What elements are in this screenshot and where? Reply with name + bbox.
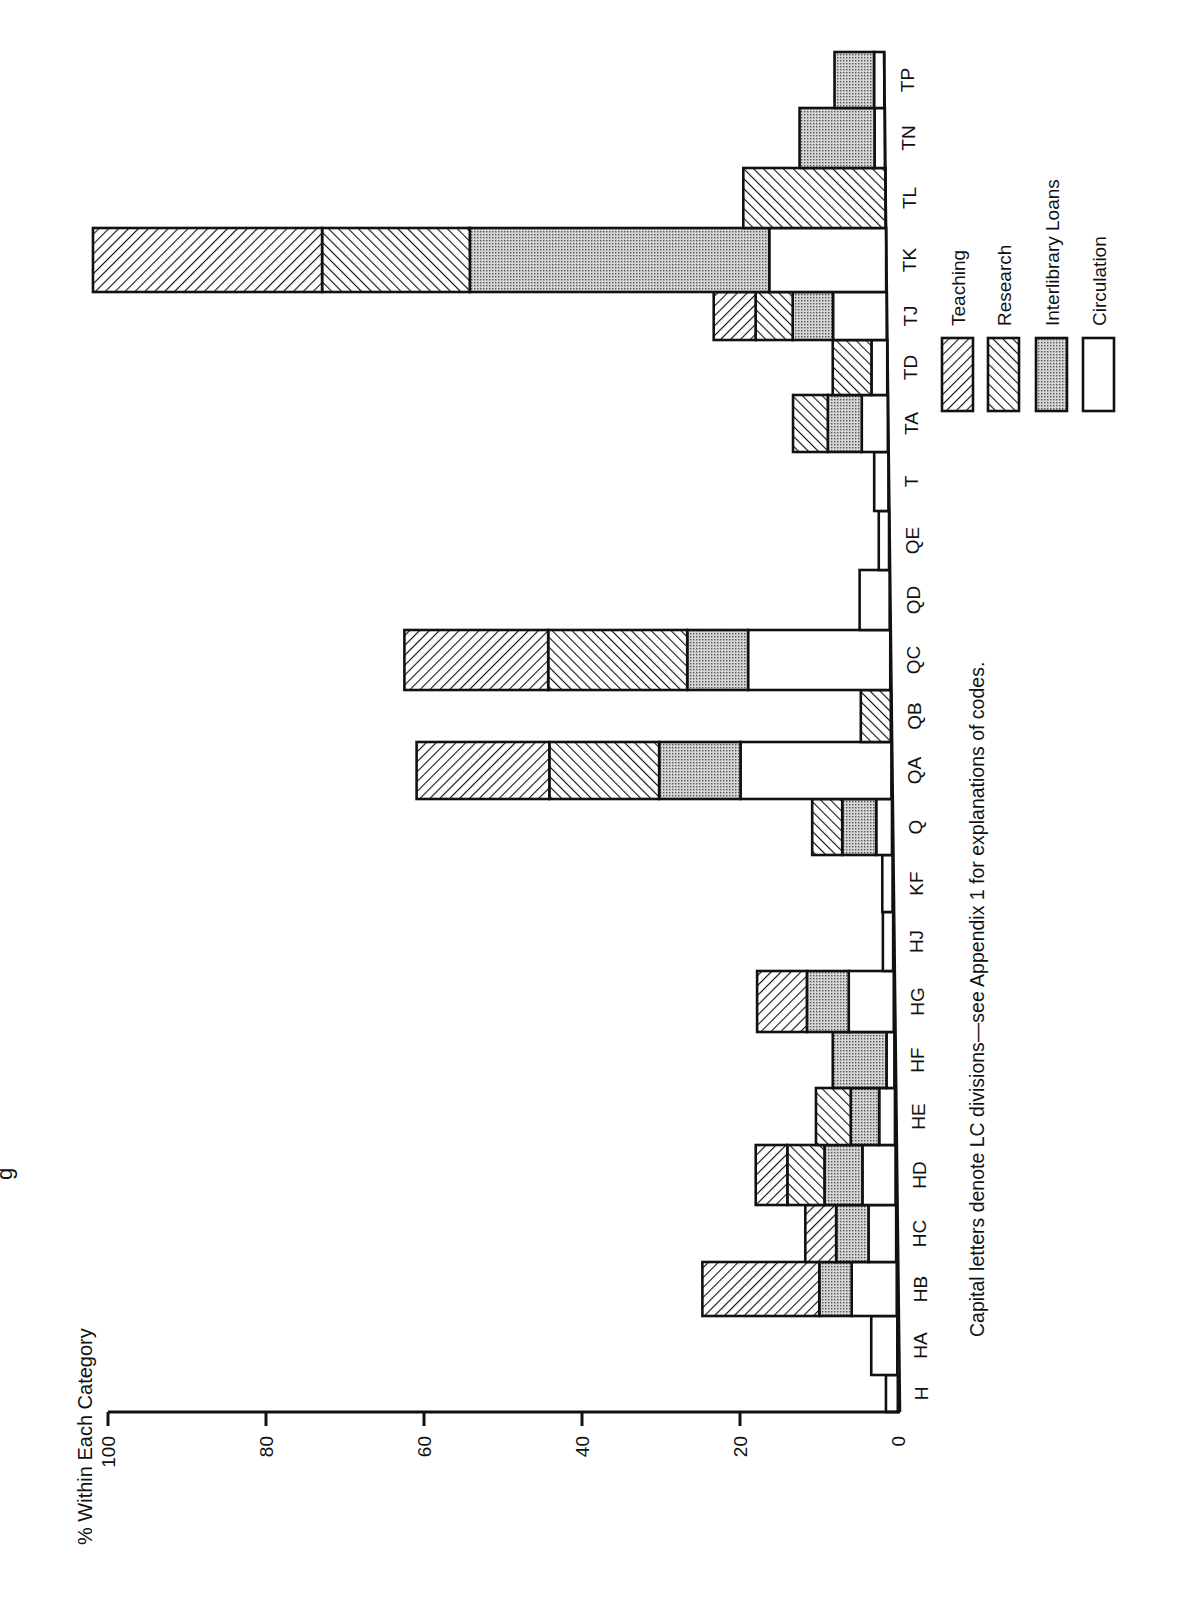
- bar-H: [886, 1375, 898, 1412]
- segment-circulation: [741, 742, 892, 799]
- category-label: HC: [909, 1220, 930, 1247]
- category-label: HG: [907, 987, 928, 1016]
- tick-label: 60: [414, 1436, 435, 1457]
- segment-interlibrary-loans: [659, 742, 740, 799]
- segment-interlibrary-loans: [807, 971, 849, 1032]
- bar-Q: [812, 799, 892, 855]
- legend-item-teaching: Teaching: [942, 250, 973, 411]
- legend-label: Teaching: [948, 250, 969, 326]
- category-label: T: [901, 475, 922, 487]
- segment-research: [816, 1088, 851, 1145]
- tick-label: 80: [256, 1436, 277, 1457]
- bar-HE: [816, 1088, 895, 1145]
- bar-TL: [743, 168, 885, 228]
- segment-research: [756, 292, 793, 340]
- legend-swatch: [1036, 338, 1067, 411]
- tick-label: 0: [888, 1436, 909, 1447]
- segment-teaching: [757, 971, 807, 1032]
- bar-KF: [882, 855, 892, 912]
- segment-interlibrary-loans: [828, 395, 862, 452]
- segment-research: [787, 1145, 824, 1205]
- segment-research: [548, 630, 687, 690]
- segment-interlibrary-loans: [793, 292, 833, 340]
- bars-group: [93, 52, 898, 1412]
- bar-QC: [404, 630, 890, 690]
- legend: TeachingResearchInterlibrary LoansCircul…: [942, 179, 1114, 411]
- category-label: HF: [907, 1047, 928, 1072]
- segment-interlibrary-loans: [824, 1145, 862, 1205]
- segment-circulation: [886, 1375, 898, 1412]
- bar-HD: [756, 1145, 896, 1205]
- segment-teaching: [805, 1205, 836, 1262]
- segment-teaching: [417, 742, 550, 799]
- segment-interlibrary-loans: [833, 1032, 887, 1088]
- tick-label: 40: [572, 1436, 593, 1457]
- segment-circulation: [879, 511, 889, 570]
- category-label: QC: [903, 646, 924, 675]
- segment-teaching: [702, 1262, 819, 1316]
- bar-QB: [861, 690, 891, 742]
- segment-circulation: [769, 228, 886, 292]
- category-label: QB: [904, 702, 925, 729]
- segment-circulation: [833, 292, 887, 340]
- bar-QE: [879, 511, 889, 570]
- category-label: QD: [903, 586, 924, 615]
- tick-label: 20: [730, 1436, 751, 1457]
- segment-circulation: [876, 799, 892, 855]
- segment-circulation: [874, 452, 888, 511]
- segment-circulation: [862, 1145, 895, 1205]
- category-labels: HHAHBHCHDHEHFHGHJKFQQAQBQCQDQETTATDTJTKT…: [897, 68, 932, 1401]
- segment-research: [793, 395, 828, 452]
- bar-TK: [93, 228, 886, 292]
- category-label: TJ: [900, 305, 921, 326]
- legend-label: Circulation: [1089, 236, 1110, 326]
- segment-research: [812, 799, 842, 855]
- segment-interlibrary-loans: [851, 1088, 879, 1145]
- bar-TN: [800, 108, 885, 168]
- segment-circulation: [852, 1262, 897, 1316]
- category-label: HJ: [906, 930, 927, 953]
- category-label: HD: [909, 1161, 930, 1188]
- segment-interlibrary-loans: [470, 228, 769, 292]
- segment-teaching: [404, 630, 548, 690]
- category-label: QE: [902, 527, 923, 554]
- legend-swatch: [1083, 338, 1114, 411]
- legend-label: Interlibrary Loans: [1042, 179, 1063, 326]
- caption: Capital letters denote LC divisions—see …: [966, 662, 988, 1337]
- segment-circulation: [849, 971, 894, 1032]
- bar-T: [874, 452, 888, 511]
- segment-teaching: [93, 228, 322, 292]
- segment-research: [833, 340, 872, 395]
- category-label: HA: [910, 1332, 931, 1359]
- segment-interlibrary-loans: [819, 1262, 851, 1316]
- tick-label: 100: [98, 1436, 119, 1468]
- segment-teaching: [756, 1145, 788, 1205]
- segment-research: [743, 168, 885, 228]
- category-label: TL: [899, 187, 920, 209]
- segment-circulation: [862, 395, 888, 452]
- category-label: TK: [899, 248, 920, 273]
- segment-research: [322, 228, 470, 292]
- legend-label: Research: [994, 245, 1015, 326]
- category-label: KF: [906, 871, 927, 895]
- legend-item-research: Research: [988, 245, 1019, 411]
- stacked-bar-chart: g % Within Each Category 020406080100 HH…: [0, 0, 1190, 1598]
- legend-item-circulation: Circulation: [1083, 236, 1114, 411]
- segment-circulation: [860, 570, 890, 630]
- segment-research: [861, 690, 891, 742]
- segment-circulation: [882, 855, 892, 912]
- category-label: QA: [904, 756, 925, 784]
- segment-interlibrary-loans: [687, 630, 748, 690]
- category-label: H: [911, 1387, 932, 1401]
- bar-HF: [833, 1032, 895, 1088]
- segment-circulation: [869, 1205, 897, 1262]
- bar-HC: [805, 1205, 896, 1262]
- legend-swatch: [942, 338, 973, 411]
- bar-HA: [871, 1316, 897, 1375]
- category-label: HE: [908, 1103, 929, 1129]
- segment-circulation: [879, 1088, 895, 1145]
- axis-label: % Within Each Category: [74, 1328, 96, 1545]
- bar-QA: [417, 742, 892, 799]
- segment-teaching: [714, 292, 756, 340]
- category-label: TA: [901, 412, 922, 435]
